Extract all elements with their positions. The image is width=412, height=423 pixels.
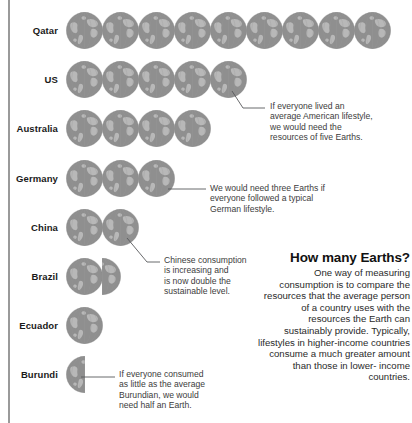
earth-globe-group <box>66 258 120 302</box>
earth-globe-icon <box>138 61 175 98</box>
earth-globe-group <box>66 110 210 154</box>
earth-globe-icon <box>66 12 103 49</box>
earth-globe-icon <box>318 12 355 49</box>
country-label-brazil: Brazil <box>0 271 58 282</box>
earth-globe-half-icon <box>102 258 121 295</box>
annotation-us: If everyone lived anaverage American lif… <box>270 101 410 143</box>
earth-globe-icon <box>174 12 211 49</box>
earth-globe-group <box>66 160 174 204</box>
earth-globe-group <box>66 356 84 400</box>
explainer-panel: How many Earths? One way of measuring co… <box>258 250 410 383</box>
panel-body: One way of measuring consumption is to c… <box>258 267 410 383</box>
infographic-canvas: QatarUSAustraliaGermanyChinaBrazilEcuado… <box>0 0 412 423</box>
country-label-germany: Germany <box>0 173 58 184</box>
country-label-china: China <box>0 222 58 233</box>
earth-globe-icon <box>102 110 139 147</box>
earth-globe-group <box>66 307 102 351</box>
earth-globe-group <box>66 209 138 253</box>
earth-globe-icon <box>102 12 139 49</box>
country-row: China <box>0 209 412 253</box>
annotation-germany: We would need three Earths ifeveryone fo… <box>210 183 410 214</box>
earth-globe-icon <box>66 258 103 295</box>
panel-heading: How many Earths? <box>258 250 410 265</box>
country-row: US <box>0 61 412 105</box>
earth-globe-icon <box>174 61 211 98</box>
earth-globe-icon <box>174 110 211 147</box>
earth-globe-icon <box>66 160 103 197</box>
earth-globe-icon <box>138 160 175 197</box>
earth-globe-icon <box>210 61 247 98</box>
country-label-burundi: Burundi <box>0 369 58 380</box>
earth-globe-icon <box>102 61 139 98</box>
country-label-us: US <box>0 74 58 85</box>
earth-globe-group <box>66 61 246 105</box>
country-row: Qatar <box>0 12 412 56</box>
country-label-ecuador: Ecuador <box>0 320 58 331</box>
earth-globe-icon <box>102 209 139 246</box>
earth-globe-icon <box>282 12 319 49</box>
country-label-qatar: Qatar <box>0 25 58 36</box>
earth-globe-icon <box>354 12 391 49</box>
earth-globe-icon <box>66 61 103 98</box>
earth-globe-half-icon <box>66 356 85 393</box>
earth-globe-icon <box>210 12 247 49</box>
country-label-australia: Australia <box>0 123 58 134</box>
earth-globe-icon <box>246 12 283 49</box>
annotation-burundi: If everyone consumedas little as the ave… <box>119 369 259 411</box>
earth-globe-icon <box>138 110 175 147</box>
earth-globe-icon <box>66 209 103 246</box>
earth-globe-icon <box>102 160 139 197</box>
earth-globe-icon <box>66 307 103 344</box>
earth-globe-icon <box>66 110 103 147</box>
earth-globe-icon <box>138 12 175 49</box>
earth-globe-group <box>66 12 390 56</box>
